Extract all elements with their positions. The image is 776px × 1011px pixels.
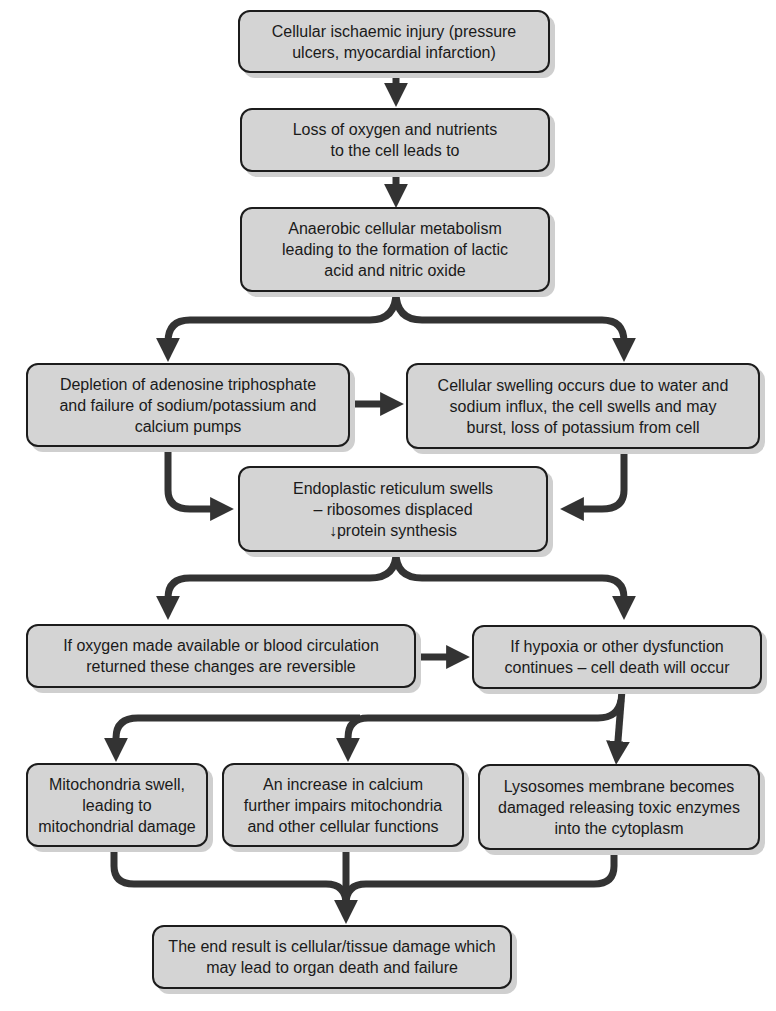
arrow-n4-to-n6 [168,448,222,509]
flowchart-diagram: Cellular ischaemic injury (pressure ulce… [0,0,776,1011]
node-cell-death: If hypoxia or other dysfunction continue… [472,625,762,689]
node-label: Cellular swelling occurs due to water an… [438,375,729,438]
arrow-n8-to-n10 [348,700,621,750]
node-loss-of-oxygen: Loss of oxygen and nutrients to the cell… [240,108,550,172]
node-calcium-increase: An increase in calcium further impairs m… [222,763,464,847]
node-label: Depletion of adenosine triphosphate and … [59,374,316,437]
node-label: An increase in calcium further impairs m… [244,774,442,837]
arrow-n11-to-n12 [346,851,614,904]
node-label: Endoplastic reticulum swells – ribosomes… [293,478,493,541]
node-anaerobic-metabolism: Anaerobic cellular metabolism leading to… [240,207,550,292]
node-label: Cellular ischaemic injury (pressure ulce… [272,21,517,63]
node-label: If oxygen made available or blood circul… [63,635,379,677]
node-label: Loss of oxygen and nutrients to the cell… [293,119,498,161]
node-label: Lysosomes membrane becomes damaged relea… [498,776,740,839]
node-ischaemic-injury: Cellular ischaemic injury (pressure ulce… [238,10,550,73]
node-atp-depletion: Depletion of adenosine triphosphate and … [26,363,350,447]
node-cellular-swelling: Cellular swelling occurs due to water an… [406,363,760,449]
arrow-n5-to-n6 [572,450,624,509]
node-label: If hypoxia or other dysfunction continue… [504,636,729,678]
arrow-n6-to-n7 [168,553,396,608]
node-end-result: The end result is cellular/tissue damage… [152,925,512,989]
node-mitochondria-swell: Mitochondria swell, leading to mitochond… [26,763,208,847]
node-reversible-changes: If oxygen made available or blood circul… [26,624,416,688]
arrow-n9-to-n12 [114,848,346,912]
arrow-n8-to-n11 [617,690,622,753]
node-label: Anaerobic cellular metabolism leading to… [282,218,508,281]
node-endoplasmic-reticulum: Endoplastic reticulum swells – ribosomes… [238,466,548,552]
node-label: Mitochondria swell, leading to mitochond… [38,774,195,837]
arrow-n6-to-n8 [396,553,624,608]
arrow-n3-to-n4 [168,292,396,350]
arrow-n3-to-n5 [396,292,624,350]
node-label: The end result is cellular/tissue damage… [168,936,495,978]
node-lysosomes-damaged: Lysosomes membrane becomes damaged relea… [478,764,760,850]
arrow-n8-to-n9 [116,718,360,750]
